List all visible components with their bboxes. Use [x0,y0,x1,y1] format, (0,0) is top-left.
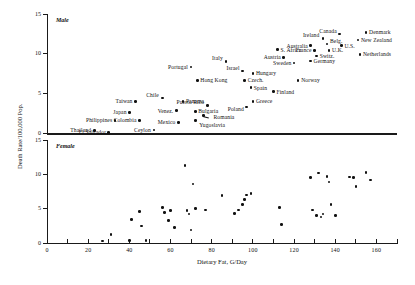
data-point [330,203,333,206]
x-ticklabel: 60 [161,247,181,253]
male-y-ticklabel: 0 [29,130,41,136]
data-point [134,100,137,103]
data-point [138,119,141,122]
country-label: Ireland [303,32,320,38]
country-label: Denmark [369,29,391,35]
data-point [317,172,320,175]
country-label: Venez. [158,108,174,114]
female-y-ticklabel: 10 [29,171,41,177]
x-tick [294,239,295,244]
data-point [190,66,193,69]
scatter-plot-figure: 051015051015020406080100120140160Dietary… [0,0,415,285]
country-label: Greece [256,98,272,104]
male-y-tick [43,53,48,54]
female-y-ticklabel: 5 [29,205,41,211]
data-point [334,214,337,217]
x-tick [252,239,253,244]
male-y-ticklabel: 5 [29,90,41,96]
data-point [128,111,131,114]
data-point [175,109,178,112]
data-point [225,60,228,63]
x-tick [67,239,68,244]
female-y-tick [43,174,48,175]
country-label: Italy [212,55,223,61]
country-label: Belg. [330,38,342,44]
data-point [140,225,143,228]
male-y-ticklabel: 15 [29,11,41,17]
x-tick [211,239,212,244]
country-label: Poland [228,106,244,112]
x-ticklabel: 40 [119,247,139,253]
x-tick [88,239,89,244]
data-point [196,79,199,82]
data-point [328,181,331,184]
country-label: Puerto Rico [177,99,205,105]
country-label: Canada [319,28,336,34]
country-label: Ceylon [134,127,151,133]
male-y-tick [43,93,48,94]
country-label: Colombia [114,117,137,123]
data-point [352,176,355,179]
data-point [243,198,246,201]
data-point [365,171,368,174]
country-label: Norway [301,77,320,83]
data-point [272,90,275,93]
x-ticklabel: 140 [325,247,345,253]
data-point [293,62,296,65]
x-tick [273,239,274,244]
data-point [348,176,351,179]
data-point [138,210,141,213]
data-point [206,104,209,107]
x-tick [376,239,377,244]
data-point [365,31,368,34]
data-point [322,37,325,40]
country-label: Chile [146,92,159,98]
male-y-tick [43,133,48,134]
country-label: Romania [213,114,234,120]
male-y-ticklabel: 10 [29,50,41,56]
x-tick [335,239,336,244]
female-y-ticklabel: 0 [29,240,41,246]
data-point [252,100,255,103]
data-point [250,192,253,195]
data-point [241,70,244,73]
country-label: Yugoslavia [199,122,225,128]
data-point [322,213,325,216]
country-label: Sweden [273,60,291,66]
country-label: Hong Kong [200,77,227,83]
label-leader-line [203,116,209,118]
data-point [328,49,331,52]
country-label: Switz. [320,53,335,59]
data-point [173,226,176,229]
data-point [309,176,312,179]
data-point [161,97,164,100]
x-ticklabel: 0 [37,247,57,253]
data-point [245,194,248,197]
data-point [315,214,318,217]
data-point [355,185,358,188]
data-point [326,175,329,178]
data-point [192,183,195,186]
data-point [204,209,207,212]
male-y-axis-line [47,14,48,133]
data-point [194,110,197,113]
data-point [276,48,279,51]
data-point [245,106,248,109]
data-point [167,219,170,222]
country-label: New Zealand [361,37,392,43]
data-point [280,223,283,226]
data-point [153,129,156,132]
data-point [338,33,341,36]
data-point [359,53,362,56]
x-tick [149,239,150,244]
country-label: El Salvador [79,129,106,135]
data-point [282,56,285,59]
x-tick [314,239,315,244]
data-point [241,203,244,206]
x-ticklabel: 100 [243,247,263,253]
data-point [194,207,197,210]
x-ticklabel: 20 [78,247,98,253]
data-point [237,209,240,212]
y-axis-title: Death Rate/100,000 Pop. [16,103,23,168]
data-point [278,206,281,209]
